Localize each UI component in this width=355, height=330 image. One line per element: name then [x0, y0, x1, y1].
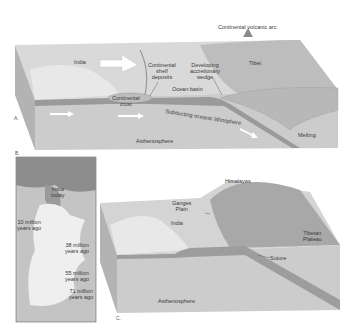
label-10-million: 10 million years ago — [17, 219, 41, 231]
label-71-million: 71 million years ago — [69, 288, 93, 300]
label-himalayas: Himalayas — [225, 178, 251, 184]
label-continental-crust: Continental crust — [112, 95, 140, 107]
diagram-graphics — [0, 0, 355, 330]
label-india-today: India today — [51, 186, 64, 198]
label-ocean-basin: Ocean basin — [172, 86, 203, 92]
label-38-million: 38 million years ago — [65, 242, 89, 254]
label-tibet: Tibet — [249, 60, 261, 66]
label-ganges-plain: Ganges Plain — [172, 200, 191, 212]
panel-b-letter: B. — [15, 150, 20, 156]
label-melting: Melting — [298, 132, 316, 138]
label-asthenosphere-a: Asthenosphere — [136, 138, 173, 144]
panel-a-letter: A. — [14, 115, 19, 121]
label-india-a: India — [74, 59, 86, 65]
label-55-million: 55 million years ago — [65, 270, 89, 282]
label-suture: Suture — [270, 255, 286, 261]
label-volcanic-arc: Continental volcanic arc — [218, 24, 276, 30]
label-asthenosphere-c: Asthenosphere — [158, 298, 195, 304]
label-india-c: India — [171, 220, 183, 226]
label-shelf-deposits: Continental shelf deposits — [148, 62, 176, 80]
label-tibetan-plateau: Tibetan Plateau — [303, 230, 322, 242]
label-accretionary-wedge: Developing accretionary wedge — [190, 62, 220, 80]
panel-c-block — [100, 180, 340, 313]
panel-c-letter: C. — [116, 315, 121, 321]
